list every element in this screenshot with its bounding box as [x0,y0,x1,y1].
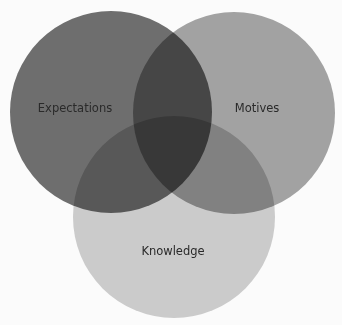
venn-svg: Expectations Motives Knowledge [0,0,342,325]
venn-diagram: Expectations Motives Knowledge [0,0,342,325]
expectations-label: Expectations [38,101,112,115]
knowledge-label: Knowledge [141,244,204,258]
motives-label: Motives [235,101,280,115]
